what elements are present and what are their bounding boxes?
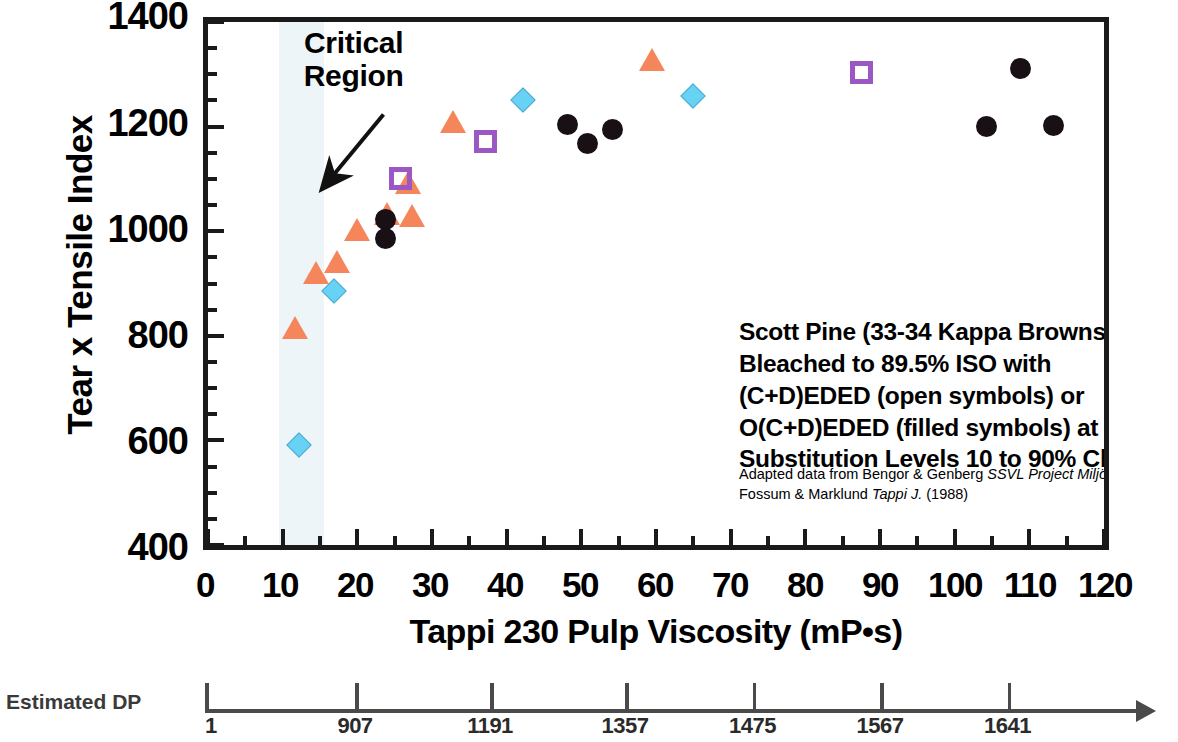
citation-2-italic: Tappi J. xyxy=(872,486,922,502)
y-axis-tick xyxy=(208,543,224,547)
estimated-dp-tick xyxy=(205,683,209,713)
data-point-square xyxy=(850,61,873,84)
estimated-dp-tick-label: 907 xyxy=(295,713,415,739)
y-axis-tick xyxy=(208,360,217,364)
estimated-dp-label: Estimated DP xyxy=(6,690,141,714)
data-point-triangle xyxy=(324,250,350,273)
y-tick-label-1400: 1400 xyxy=(78,0,188,38)
data-point-triangle xyxy=(440,110,466,133)
data-point-square xyxy=(389,167,412,190)
chart-canvas: Tear x Tensile Index 1400 1200 1000 800 … xyxy=(0,0,1178,742)
critical-region-label: Critical Region xyxy=(264,27,444,92)
citation-1-italic: SSVL Project Miljö 93 xyxy=(987,466,1109,482)
estimated-dp-tick-label: 1357 xyxy=(565,713,685,739)
data-point-triangle xyxy=(282,316,308,339)
x-axis-tick xyxy=(729,529,733,545)
x-axis-tick xyxy=(430,529,434,545)
x-axis-tick xyxy=(766,536,770,545)
x-axis-tick xyxy=(505,529,509,545)
x-axis-tick xyxy=(243,536,247,545)
y-tick-label-600: 600 xyxy=(78,420,188,463)
x-axis-tick xyxy=(318,536,322,545)
y-axis-tick xyxy=(208,255,217,259)
x-axis-tick xyxy=(1027,529,1031,545)
x-axis-tick xyxy=(206,529,210,545)
y-axis-tick xyxy=(208,229,224,233)
y-axis-tick xyxy=(208,491,217,495)
citation-2-a: Fossum & Marklund xyxy=(739,486,872,502)
y-axis-tick xyxy=(208,465,217,469)
y-axis-tick xyxy=(208,151,217,155)
citation-line-2: Fossum & Marklund Tappi J. (1988) xyxy=(739,485,1109,505)
x-axis-tick xyxy=(1102,529,1106,545)
estimated-dp-tick xyxy=(625,683,629,711)
data-point-square xyxy=(474,130,497,153)
estimated-dp-tick xyxy=(355,683,359,711)
y-axis-tick xyxy=(208,98,217,102)
y-axis-tick xyxy=(208,72,217,76)
x-axis-tick xyxy=(990,536,994,545)
y-tick-label-400: 400 xyxy=(78,526,188,569)
estimated-dp-tick-label: 1475 xyxy=(693,713,813,739)
x-axis-tick xyxy=(393,536,397,545)
y-tick-label-800: 800 xyxy=(78,314,188,357)
estimated-dp-tick-label: 1641 xyxy=(948,713,1068,739)
x-axis-tick xyxy=(654,529,658,545)
x-axis-tick xyxy=(542,536,546,545)
description-block: Scott Pine (33-34 Kappa Brownstock) Blea… xyxy=(739,316,1109,479)
description-line-2: Bleached to 89.5% ISO with xyxy=(739,348,1109,380)
data-point-circle xyxy=(976,116,997,137)
y-axis-tick xyxy=(208,438,224,442)
estimated-dp-tick xyxy=(490,683,494,711)
x-axis-tick xyxy=(1065,536,1069,545)
data-point-triangle xyxy=(344,218,370,241)
citation-block: Adapted data from Bengor & Genberg SSVL … xyxy=(739,465,1109,504)
y-axis-tick xyxy=(208,282,217,286)
data-point-triangle xyxy=(639,48,665,71)
estimated-dp-arrow-icon xyxy=(1136,700,1156,722)
estimated-dp-tick-label: 1 xyxy=(205,713,265,739)
x-axis-tick xyxy=(579,529,583,545)
y-axis-tick xyxy=(208,177,217,181)
estimated-dp-tick xyxy=(1008,683,1012,711)
estimated-dp-tick xyxy=(880,683,884,711)
y-axis-tick xyxy=(208,125,224,129)
y-axis-tick xyxy=(208,308,217,312)
description-line-4: O(C+D)EDED (filled symbols) at xyxy=(739,412,1109,444)
x-axis-tick xyxy=(355,529,359,545)
x-axis-tick xyxy=(803,529,807,545)
data-point-circle xyxy=(1010,58,1031,79)
x-axis-tick xyxy=(691,536,695,545)
plot-area: Critical Region Scott Pine (33-34 Kappa … xyxy=(203,17,1109,550)
estimated-dp-tick-label: 1567 xyxy=(820,713,940,739)
citation-1-a: Adapted data from Bengor & Genberg xyxy=(739,466,987,482)
y-axis-tick xyxy=(208,386,217,390)
x-axis-tick xyxy=(915,536,919,545)
y-axis-tick xyxy=(208,203,217,207)
y-axis-tick xyxy=(208,46,217,50)
x-axis-tick xyxy=(841,536,845,545)
estimated-dp-tick xyxy=(753,683,757,711)
x-axis-title: Tappi 230 Pulp Viscosity (mP•s) xyxy=(203,612,1109,651)
x-axis-tick xyxy=(878,529,882,545)
y-axis-tick xyxy=(208,334,224,338)
x-axis-tick xyxy=(617,536,621,545)
x-axis-tick xyxy=(953,529,957,545)
description-line-1: Scott Pine (33-34 Kappa Brownstock) xyxy=(739,316,1109,348)
y-axis-tick xyxy=(208,517,217,521)
y-tick-label-1200: 1200 xyxy=(78,102,188,145)
y-axis-tick xyxy=(208,412,217,416)
x-axis-tick xyxy=(467,536,471,545)
citation-2-b: (1988) xyxy=(922,486,968,502)
y-axis-tick xyxy=(208,20,224,24)
y-tick-label-1000: 1000 xyxy=(78,208,188,251)
x-axis-tick xyxy=(281,529,285,545)
x-tick-label-120: 120 xyxy=(1060,565,1150,605)
citation-line-1: Adapted data from Bengor & Genberg SSVL … xyxy=(739,465,1109,485)
data-point-triangle xyxy=(399,204,425,227)
data-point-circle xyxy=(577,133,598,154)
description-line-3: (C+D)EDED (open symbols) or xyxy=(739,380,1109,412)
estimated-dp-tick-label: 1191 xyxy=(430,713,550,739)
